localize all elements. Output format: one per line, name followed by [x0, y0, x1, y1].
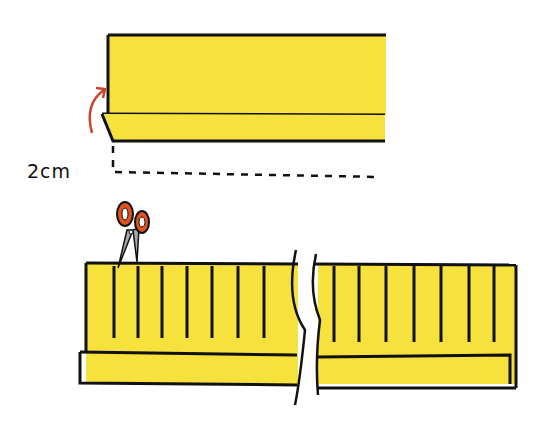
fringe-strip-right	[313, 254, 516, 395]
measurement-label: 2cm	[27, 160, 71, 182]
scissors-icon	[117, 202, 149, 268]
fringe-strip-left	[80, 250, 305, 405]
diagram-canvas	[0, 0, 542, 427]
folded-strip	[102, 35, 386, 141]
fold-arrow-icon	[90, 90, 104, 133]
measure-line	[113, 146, 380, 177]
